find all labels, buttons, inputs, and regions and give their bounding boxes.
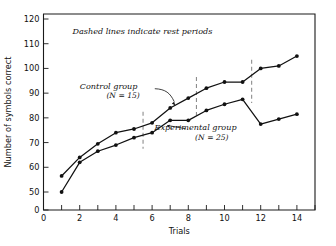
data-point [132, 127, 136, 131]
x-axis-title: Trials [168, 226, 190, 236]
y-tick-label: 120 [24, 14, 40, 24]
plot-frame [44, 14, 316, 210]
data-point [132, 136, 136, 140]
series-line [62, 56, 297, 176]
y-tick-label: 110 [24, 39, 40, 49]
x-tick-label: 8 [186, 213, 191, 223]
data-point [277, 64, 281, 68]
data-point [205, 86, 209, 90]
y-tick-label: 60 [29, 162, 39, 172]
data-point [241, 97, 245, 101]
data-point [150, 131, 154, 135]
data-point [241, 80, 245, 84]
data-point [150, 121, 154, 125]
data-point [60, 174, 64, 178]
y-tick-label: 70 [29, 138, 39, 148]
annotation-note: Dashed lines indicate rest periods [71, 26, 212, 36]
y-tick-label: 90 [29, 88, 39, 98]
data-point [295, 54, 299, 58]
y-tick-label: 0 [34, 205, 39, 215]
x-tick-label: 2 [77, 213, 82, 223]
x-tick-label: 14 [292, 213, 302, 223]
axis-tick-labels: 0246810121405060708090100110120 [24, 14, 302, 223]
y-tick-label: 100 [24, 63, 40, 73]
x-tick-label: 0 [41, 213, 46, 223]
data-point [78, 160, 82, 164]
y-tick-label: 50 [29, 187, 39, 197]
data-point [168, 106, 172, 110]
data-point [259, 122, 263, 126]
data-point [223, 102, 227, 106]
figure-container: 0246810121405060708090100110120 Dashed l… [0, 0, 336, 246]
data-point [186, 96, 190, 100]
data-point [96, 149, 100, 153]
annotation-control-n: (N = 15) [106, 91, 139, 100]
x-tick-label: 6 [149, 213, 154, 223]
x-tick-label: 4 [113, 213, 118, 223]
plot-border [44, 14, 316, 210]
y-axis-title: Number of symbols correct [3, 56, 13, 168]
annotation-experimental-n: (N = 25) [195, 133, 228, 142]
data-point [114, 143, 118, 147]
control-leader-arrow [172, 102, 175, 106]
data-point [96, 142, 100, 146]
data-point [295, 112, 299, 116]
x-tick-label: 12 [255, 213, 265, 223]
data-point [277, 117, 281, 121]
series-control [60, 54, 299, 178]
annotation-control-label: Control group [80, 81, 138, 91]
y-tick-label: 80 [29, 113, 39, 123]
annotation-experimental-label: Experimental group [153, 122, 236, 132]
axis-ticks [44, 19, 316, 210]
data-point [259, 67, 263, 71]
data-point [205, 109, 209, 113]
data-point [114, 131, 118, 135]
line-chart: 0246810121405060708090100110120 Dashed l… [0, 0, 336, 246]
x-tick-label: 10 [219, 213, 229, 223]
series-line [62, 99, 297, 192]
chart-annotations: Dashed lines indicate rest periodsContro… [71, 26, 236, 142]
data-point [78, 156, 82, 160]
data-point [60, 190, 64, 194]
data-point [223, 80, 227, 84]
control-leader-line [155, 89, 174, 102]
